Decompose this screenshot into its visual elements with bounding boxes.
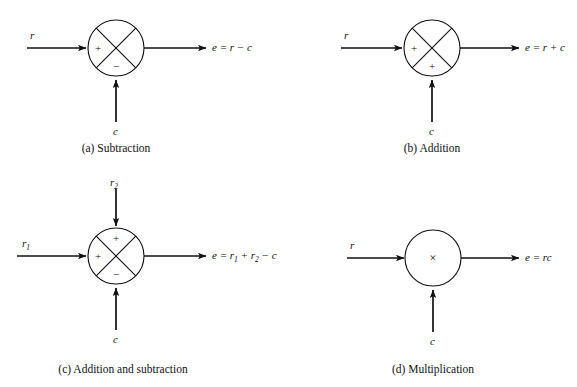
panel-d-graphic <box>0 0 577 387</box>
output-equation: e = rc <box>525 252 552 263</box>
input-label-bottom: c <box>430 336 435 347</box>
panel-caption: (d) Multiplication <box>392 364 474 376</box>
multiply-icon: × <box>430 252 437 264</box>
input-label-left: r <box>350 240 354 251</box>
panel-d-multiplication: × r c e = rc (d) Multiplication <box>0 0 577 387</box>
figure-block-diagram-junction-symbols: + − r c e = r − c (a) Subtraction + + r … <box>0 0 577 387</box>
